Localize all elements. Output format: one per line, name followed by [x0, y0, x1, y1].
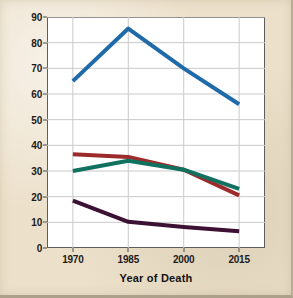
- x-axis-label: Year of Death: [47, 272, 265, 284]
- series-group: [73, 29, 239, 232]
- chart-figure: Death rate per 100,000 01020304050607080…: [0, 0, 293, 298]
- x-tick-label-2015: 2015: [228, 254, 249, 265]
- y-tick-mark-90: [43, 17, 47, 18]
- y-tick-label-0: 0: [37, 243, 42, 254]
- y-tick-mark-30: [43, 170, 47, 171]
- x-tick-mark-2015: [239, 248, 240, 252]
- y-tick-mark-50: [43, 119, 47, 120]
- gridlines-group: [47, 17, 265, 248]
- y-tick-mark-70: [43, 68, 47, 69]
- y-tick-label-40: 40: [31, 140, 42, 151]
- x-tick-label-1970: 1970: [62, 254, 83, 265]
- x-tick-mark-1970: [72, 248, 73, 252]
- x-tick-label-2000: 2000: [173, 254, 194, 265]
- y-tick-label-50: 50: [31, 114, 42, 125]
- y-tick-label-80: 80: [31, 37, 42, 48]
- line-chart-svg: [47, 17, 265, 248]
- series-red: [73, 154, 239, 195]
- series-purple: [73, 201, 239, 232]
- series-blue: [73, 29, 239, 105]
- plot-wrapper: 0102030405060708090 1970198520002015: [47, 17, 265, 248]
- y-tick-mark-20: [43, 196, 47, 197]
- y-tick-mark-80: [43, 42, 47, 43]
- x-tick-label-1985: 1985: [118, 254, 139, 265]
- y-tick-label-10: 10: [31, 217, 42, 228]
- x-tick-mark-2000: [183, 248, 184, 252]
- y-tick-label-70: 70: [31, 63, 42, 74]
- y-tick-mark-10: [43, 222, 47, 223]
- y-tick-label-90: 90: [31, 12, 42, 23]
- y-tick-mark-0: [43, 248, 47, 249]
- y-tick-mark-40: [43, 145, 47, 146]
- y-tick-label-60: 60: [31, 88, 42, 99]
- y-tick-mark-60: [43, 93, 47, 94]
- x-tick-mark-1985: [128, 248, 129, 252]
- y-tick-label-30: 30: [31, 165, 42, 176]
- y-tick-label-20: 20: [31, 191, 42, 202]
